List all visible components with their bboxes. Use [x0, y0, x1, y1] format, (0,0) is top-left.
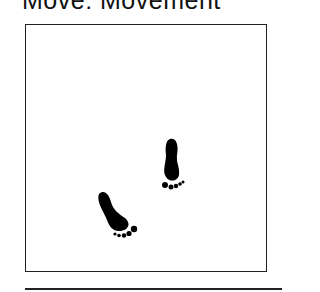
- footprint-icon: [95, 190, 141, 240]
- illustration-frame: [25, 24, 267, 272]
- page-title: Move: Movement: [22, 0, 282, 15]
- divider-line: [25, 288, 282, 290]
- footprint-icon: [160, 137, 190, 193]
